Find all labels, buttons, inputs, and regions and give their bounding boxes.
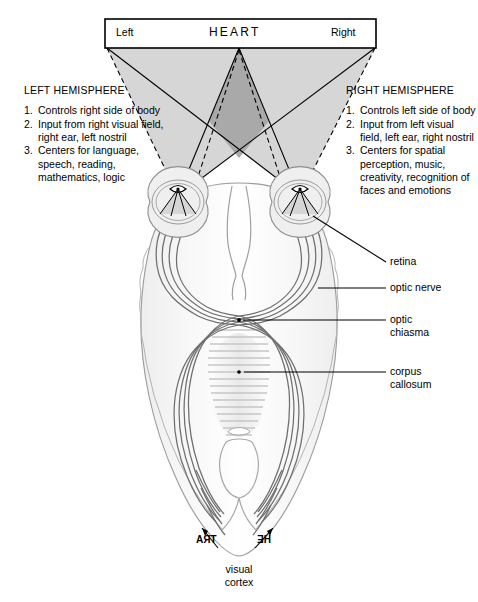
list-item-number: 1. <box>24 104 38 117</box>
brain-body <box>140 183 339 556</box>
list-item-text: Input from left visual field, left ear, … <box>360 118 478 144</box>
list-item-text: Controls left side of body <box>360 104 478 117</box>
right-hemisphere-list: 1. Controls left side of body 2. Input f… <box>346 104 478 197</box>
list-item: 2. Input from left visual field, left ea… <box>346 118 478 144</box>
label-retina: retina <box>390 255 416 268</box>
list-item: 3. Centers for spatial perception, music… <box>346 144 478 197</box>
label-visual-cortex: visual cortex <box>206 563 272 589</box>
list-item-number: 3. <box>24 144 38 183</box>
right-eye <box>270 167 330 238</box>
diagram-canvas: Left HEART Right LEFT HEMISPHERE 1. Cont… <box>0 0 478 602</box>
optic-chiasma-point <box>237 318 241 322</box>
list-item-number: 2. <box>24 118 38 144</box>
corpus-callosum-point <box>237 370 241 374</box>
label-optic-nerve: optic nerve <box>390 281 441 294</box>
list-item: 1. Controls left side of body <box>346 104 478 117</box>
stimulus-right-label: Right <box>331 26 356 38</box>
left-hemisphere-list: 1. Controls right side of body 2. Input … <box>24 104 166 184</box>
left-cortex-projection-text: TRA <box>196 534 217 545</box>
label-corpus-callosum: corpus callosum <box>390 365 431 391</box>
list-item: 3. Centers for language, speech, reading… <box>24 144 166 183</box>
list-item-text: Controls right side of body <box>38 104 166 117</box>
list-item-number: 1. <box>346 104 360 117</box>
label-optic-chiasma: optic chiasma <box>390 313 429 339</box>
left-hemisphere-heading: LEFT HEMISPHERE <box>24 84 125 97</box>
list-item-text: Input from right visual field, right ear… <box>38 118 166 144</box>
list-item: 2. Input from right visual field, right … <box>24 118 166 144</box>
list-item-text: Centers for language, speech, reading, m… <box>38 144 166 183</box>
list-item-number: 3. <box>346 144 360 197</box>
stimulus-left-label: Left <box>116 26 134 38</box>
right-cortex-projection-text: HE <box>257 534 271 545</box>
list-item: 1. Controls right side of body <box>24 104 166 117</box>
stimulus-word: HEART <box>209 25 260 39</box>
list-item-number: 2. <box>346 118 360 144</box>
right-hemisphere-heading: RIGHT HEMISPHERE <box>346 84 454 97</box>
list-item-text: Centers for spatial perception, music, c… <box>360 144 478 197</box>
